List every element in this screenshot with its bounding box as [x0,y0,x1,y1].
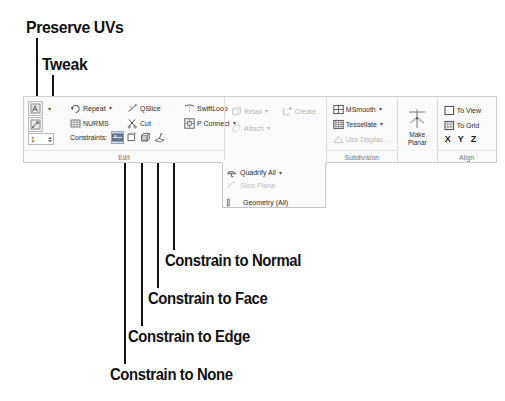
nurms-icon [70,118,81,129]
tweak-amount-value: 1 [31,136,35,143]
geo-column-right: Create [274,104,318,135]
msmooth-icon [333,104,344,115]
msmooth-caret-icon[interactable]: ▾ [379,106,382,112]
qslice-icon [127,103,138,114]
callout-label-constrain-to-face: Constrain to Face [148,290,267,308]
modeling-ribbon: ▾ 1 [23,96,497,163]
constrain-edge-icon [126,132,137,143]
callout-label-tweak: Tweak [42,55,87,75]
constraint-edge-button[interactable] [125,131,138,144]
preserve-uvs-icon [30,103,41,114]
spinner-arrows-icon[interactable] [48,134,52,144]
ribbon-panel-edit-geometry: Relax ▾ Attach ▾ [224,97,326,162]
align-axis-x-button[interactable]: X [445,134,451,144]
constrain-normal-icon [154,132,165,143]
align-to-grid-button[interactable]: To Grid [442,118,483,132]
constraint-normal-button[interactable] [153,131,166,144]
align-axis-y-button[interactable]: Y [458,134,464,144]
align-panel-rule [438,150,496,151]
tweak-amount-spinner[interactable]: 1 [28,133,54,145]
preserve-uvs-button[interactable] [28,101,43,116]
quadrify-icon [226,167,237,178]
leader-line-constrain-to-none [124,152,126,364]
edit-panel-rule [24,150,224,151]
use-displacement-button[interactable]: Use Displac… [331,132,392,146]
repeat-caret-icon[interactable]: ▾ [109,105,112,111]
make-planar-label: Make Planar [408,131,427,146]
cut-icon [127,118,138,129]
geo-column-left: Relax ▾ Attach ▾ [229,104,272,135]
geometry-all-label: Geometry (All) [243,199,288,206]
use-displacement-label: Use Displac… [346,136,390,143]
callout-label-preserve-uvs: Preserve UVs [26,18,124,38]
make-planar-button[interactable]: Make Planar [405,100,429,162]
constrain-none-icon [112,132,123,143]
attach-caret-icon[interactable]: ▾ [267,125,270,131]
nurms-button[interactable]: NURMS [68,116,125,130]
edit-panel-left-controls: ▾ 1 [28,101,66,145]
cut-button[interactable]: Cut [125,116,182,130]
leader-line-constrain-to-edge [141,152,143,326]
quadrify-all-caret-icon[interactable]: ▾ [279,170,282,176]
qslice-button[interactable]: QSlice [125,101,182,115]
relax-button[interactable]: Relax ▾ [229,104,272,118]
slice-plane-label: Slice Plane [240,182,275,189]
create-button[interactable]: Create [280,104,318,118]
preserve-uvs-caret-icon[interactable]: ▾ [48,106,51,112]
constraints-row: Constraints: [68,131,248,144]
tweak-button[interactable] [28,117,43,132]
slice-plane-menu-item[interactable]: Slice Plane [226,180,322,191]
slice-plane-icon [226,180,237,191]
tessellate-icon [333,119,344,130]
nurms-label: NURMS [83,120,109,127]
constrain-face-icon [140,132,151,143]
to-view-icon [444,105,455,116]
align-to-grid-label: To Grid [457,122,480,129]
displace-icon [333,134,344,145]
cut-label: Cut [140,120,151,127]
callout-label-constrain-to-normal: Constrain to Normal [165,252,301,270]
make-planar-icon [405,108,429,130]
geometry-all-menu-item[interactable]: Geometry (All) [226,197,322,208]
create-icon [282,106,293,117]
qslice-label: QSlice [140,105,161,112]
attach-label: Attach [244,125,264,132]
align-axis-z-button[interactable]: Z [471,134,477,144]
msmooth-label: MSmooth [346,106,376,113]
ribbon-panel-label-edit: Edit [24,154,224,161]
attach-icon [231,123,242,134]
tessellate-label: Tessellate [346,121,377,128]
make-planar-label-line2: Planar [408,139,427,147]
ribbon-panel-label-subdivision: Subdivision [327,154,397,161]
leader-line-constrain-to-normal [173,152,175,250]
subdivision-panel-rule [327,150,397,151]
tessellate-caret-icon[interactable]: ▾ [380,121,383,127]
constraint-face-button[interactable] [139,131,152,144]
callout-label-constrain-to-none: Constrain to None [110,366,233,384]
tessellate-button[interactable]: Tessellate ▾ [331,117,392,131]
repeat-icon [70,103,81,114]
msmooth-button[interactable]: MSmooth ▾ [331,102,392,116]
geometry-all-icon [226,197,237,208]
align-to-view-button[interactable]: To View [442,103,483,117]
ribbon-panel-label-align: Align [438,154,496,161]
ribbon-panel-subdivision: MSmooth ▾ Tessellate ▾ Use Displac… [326,97,397,162]
align-axis-buttons: X Y Z [442,134,483,144]
quadrify-all-label: Quadrify All [240,169,276,176]
edit-panel-commands: Repeat ▾ QSlice [68,101,248,145]
relax-caret-icon[interactable]: ▾ [265,108,268,114]
constraints-label: Constraints: [70,134,107,141]
edit-geometry-flyout: Quadrify All ▾ Slice Plane Geometry (All… [222,163,326,208]
ribbon-panel-edit: ▾ 1 [24,97,224,162]
ribbon-panel-make-planar: Make Planar [397,97,437,162]
relax-label: Relax [244,108,262,115]
tweak-icon [30,119,41,130]
quadrify-all-menu-item[interactable]: Quadrify All ▾ [226,167,322,178]
leader-line-constrain-to-face [157,152,159,288]
repeat-label: Repeat [83,105,106,112]
swiftloop-icon [184,103,195,114]
repeat-button[interactable]: Repeat ▾ [68,101,125,115]
pconnect-icon [184,118,195,129]
constraint-none-button[interactable] [111,131,124,144]
attach-button[interactable]: Attach ▾ [229,121,272,135]
